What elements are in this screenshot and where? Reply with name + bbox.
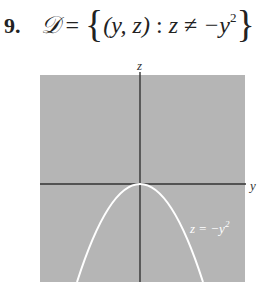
curve-label: z = −y2	[189, 219, 230, 236]
domain-figure: z y z = −y2	[0, 0, 270, 282]
shaded-region	[40, 75, 245, 282]
z-axis-label: z	[136, 58, 142, 73]
y-axis-label: y	[248, 178, 256, 193]
